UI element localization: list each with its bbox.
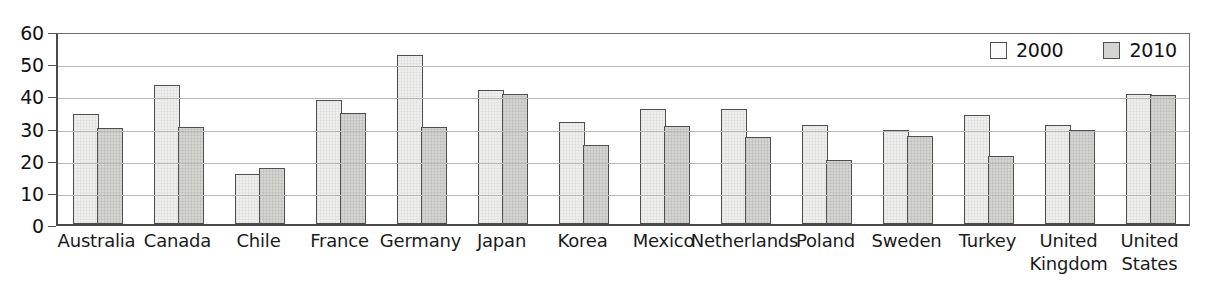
- bar-2010: [745, 137, 771, 224]
- bar-chart: 0102030405060 2000 2010 AustraliaCanadaC…: [0, 0, 1208, 296]
- x-tick-label: Poland: [796, 229, 855, 252]
- gridline: [58, 131, 1189, 132]
- x-tick-label: Sweden: [872, 229, 942, 252]
- bar-2000: [802, 125, 828, 224]
- bar-2000: [478, 90, 504, 224]
- legend-label-2010: 2010: [1129, 41, 1177, 60]
- y-tick-mark: [48, 33, 56, 34]
- bar-2000: [397, 55, 423, 224]
- y-tick-mark: [48, 65, 56, 66]
- bar-2000: [1126, 94, 1152, 224]
- x-tick-label: Canada: [144, 229, 211, 252]
- bar-2000: [235, 174, 261, 224]
- y-tick-mark: [48, 130, 56, 131]
- x-tick-label: Netherlands: [691, 229, 799, 252]
- bar-2010: [907, 136, 933, 224]
- x-tick-label: Australia: [58, 229, 136, 252]
- x-tick-label: Mexico: [633, 229, 695, 252]
- y-tick-label: 50: [2, 56, 44, 75]
- legend-swatch-2000-icon: [990, 42, 1007, 59]
- y-tick-label: 40: [2, 88, 44, 107]
- bar-2000: [1045, 125, 1071, 224]
- x-tick-label: Korea: [557, 229, 607, 252]
- y-tick-mark: [48, 162, 56, 163]
- bar-2010: [583, 145, 609, 224]
- y-tick-mark: [48, 97, 56, 98]
- y-tick-label: 30: [2, 120, 44, 139]
- bar-2010: [421, 127, 447, 224]
- x-tick-label: United States: [1121, 229, 1179, 275]
- bar-2010: [178, 127, 204, 224]
- y-tick-label: 60: [2, 24, 44, 43]
- bar-2010: [1069, 130, 1095, 224]
- x-tick-label: Germany: [380, 229, 461, 252]
- x-tick-label: Turkey: [959, 229, 1016, 252]
- bar-2010: [502, 94, 528, 224]
- bar-2010: [664, 126, 690, 224]
- legend-item-2010: 2010: [1103, 41, 1177, 60]
- gridline: [58, 98, 1189, 99]
- bar-2000: [883, 130, 909, 224]
- gridline: [58, 195, 1189, 196]
- bar-2000: [559, 122, 585, 224]
- x-tick-label: Japan: [477, 229, 526, 252]
- gridline: [58, 66, 1189, 67]
- legend-item-2000: 2000: [990, 41, 1064, 60]
- y-tick-label: 20: [2, 152, 44, 171]
- y-tick-mark: [48, 226, 56, 227]
- bar-2000: [640, 109, 666, 224]
- y-tick-label: 10: [2, 184, 44, 203]
- y-tick-mark: [48, 194, 56, 195]
- legend-swatch-2010-icon: [1103, 42, 1120, 59]
- bar-2010: [259, 168, 285, 224]
- y-axis: 0102030405060: [0, 0, 44, 296]
- bar-2010: [340, 113, 366, 224]
- x-axis: AustraliaCanadaChileFranceGermanyJapanKo…: [56, 229, 1190, 293]
- x-tick-label: Chile: [236, 229, 280, 252]
- legend-label-2000: 2000: [1016, 41, 1064, 60]
- gridline: [58, 163, 1189, 164]
- x-tick-label: France: [310, 229, 369, 252]
- bar-2010: [988, 156, 1014, 224]
- bar-2010: [97, 128, 123, 225]
- bar-2010: [826, 160, 852, 224]
- x-tick-label: United Kingdom: [1029, 229, 1107, 275]
- bar-2000: [721, 109, 747, 224]
- y-tick-label: 0: [2, 217, 44, 236]
- chart-legend: 2000 2010: [986, 41, 1181, 60]
- plot-area: 2000 2010: [56, 33, 1190, 226]
- bar-2010: [1150, 95, 1176, 224]
- bar-2000: [154, 85, 180, 224]
